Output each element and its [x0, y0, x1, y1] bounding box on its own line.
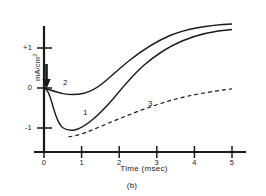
curve-label-2: 2 [63, 78, 67, 87]
axis-lines [34, 26, 246, 152]
curve-label-1: 1 [83, 108, 87, 117]
curves [44, 24, 232, 137]
y-axis-title-text: mA/cm [33, 57, 42, 81]
x-tick-label-0: 0 [36, 158, 52, 167]
curve-3-trace [69, 89, 233, 137]
panel-caption: (b) [107, 181, 157, 190]
x-axis-title: Time (msec) [96, 164, 192, 173]
y-tick-label-minus1: -1 [12, 123, 32, 132]
x-tick-label-5: 5 [224, 158, 240, 167]
curve-1-trace [44, 30, 232, 131]
y-tick-label-plus1: +1 [12, 43, 32, 52]
y-tick-label-zero: 0 [12, 83, 32, 92]
x-tick-label-1: 1 [74, 158, 90, 167]
figure-panel-b: +1 0 -1 0 1 2 3 4 5 mA/cm2 Time (msec) 2… [0, 0, 266, 196]
y-axis-title: mA/cm2 [32, 39, 43, 95]
curve-2-trace [44, 24, 232, 95]
y-axis-title-exponent: 2 [32, 53, 38, 56]
curve-label-3: 3 [148, 99, 152, 108]
